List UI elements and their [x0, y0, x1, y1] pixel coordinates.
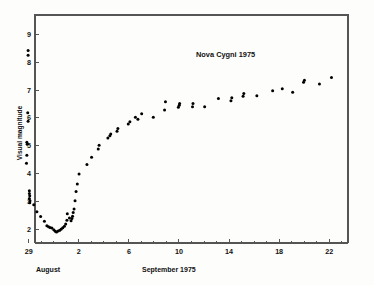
x-tick-label: 22	[325, 247, 333, 256]
data-point	[27, 120, 30, 123]
chart-axes	[35, 15, 348, 243]
data-point	[28, 189, 31, 192]
data-point	[281, 87, 284, 90]
y-tick-label: 9	[27, 30, 31, 39]
data-point	[178, 102, 181, 105]
y-tick-label: 8	[27, 58, 31, 67]
data-point	[35, 210, 38, 213]
x-tick-label: 2	[77, 247, 81, 256]
data-point	[75, 190, 78, 193]
data-point	[109, 133, 112, 136]
data-point	[229, 99, 232, 102]
x-tick-label: 10	[175, 247, 183, 256]
axis-ticks	[29, 34, 342, 243]
data-point	[76, 183, 79, 186]
data-point	[291, 91, 294, 94]
data-point	[303, 79, 306, 82]
data-point	[73, 208, 76, 211]
x-tick-label: 29	[25, 247, 33, 256]
x-axis-period-september: September 1975	[142, 266, 196, 274]
x-tick-label: 18	[275, 247, 283, 256]
data-points	[25, 49, 333, 233]
x-tick-label: 6	[127, 247, 131, 256]
data-point	[318, 82, 321, 85]
x-tick-label: 14	[225, 247, 233, 256]
data-point	[230, 96, 233, 99]
data-point	[116, 127, 119, 130]
y-tick-label: 4	[27, 169, 31, 178]
data-point	[27, 54, 30, 57]
data-point	[66, 212, 69, 215]
data-point	[134, 116, 137, 119]
data-point	[25, 154, 28, 157]
data-point	[32, 203, 35, 206]
data-point	[85, 163, 88, 166]
data-point	[128, 120, 131, 123]
data-point	[43, 220, 46, 223]
light-curve-figure: 23456789292610141822 Nova Cygni 1975 Vis…	[0, 0, 374, 285]
data-point	[65, 219, 68, 222]
data-point	[26, 111, 29, 114]
data-point	[68, 216, 71, 219]
data-point	[242, 95, 245, 98]
x-axis-period-august: August	[36, 266, 61, 274]
data-point	[271, 89, 274, 92]
plot-frame	[35, 15, 348, 243]
data-point	[26, 143, 29, 146]
data-point	[28, 194, 31, 197]
data-point	[72, 211, 75, 214]
data-point	[330, 76, 333, 79]
data-point	[217, 97, 220, 100]
data-point	[25, 162, 28, 165]
data-point	[71, 215, 74, 218]
data-point	[192, 102, 195, 105]
data-point	[64, 223, 67, 226]
data-point	[28, 201, 31, 204]
data-point	[90, 156, 93, 159]
data-point	[136, 118, 139, 121]
data-point	[163, 109, 166, 112]
data-point	[203, 105, 206, 108]
data-point	[242, 92, 245, 95]
data-point	[78, 173, 81, 176]
data-point	[116, 130, 119, 133]
chart-annotation-title: Nova Cygni 1975	[196, 50, 255, 59]
data-point	[74, 199, 77, 202]
y-tick-label: 2	[27, 225, 31, 234]
data-point	[191, 105, 194, 108]
data-point	[97, 148, 100, 151]
y-tick-label: 7	[27, 86, 31, 95]
data-point	[255, 94, 258, 97]
y-axis-title: Visual magnitude	[16, 105, 24, 160]
data-point	[98, 144, 101, 147]
data-point	[106, 136, 109, 139]
data-point	[27, 49, 30, 52]
data-point	[140, 112, 143, 115]
data-point	[152, 116, 155, 119]
data-point	[164, 100, 167, 103]
light-curve-chart: 23456789292610141822 Nova Cygni 1975 Vis…	[0, 0, 374, 285]
data-point	[39, 215, 42, 218]
